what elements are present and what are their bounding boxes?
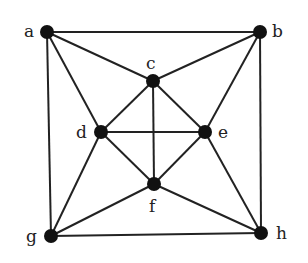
edge-f-h [154,184,261,233]
edge-g-h [51,233,261,236]
node-h [254,226,268,240]
edge-d-g [51,132,101,236]
node-g [44,229,58,243]
node-c [146,74,160,88]
edge-a-g [47,32,51,236]
node-label-c: c [146,53,156,73]
node-f [147,177,161,191]
node-label-a: a [24,21,34,41]
node-label-d: d [76,122,87,142]
edge-a-c [47,32,153,81]
edge-a-d [47,32,101,132]
edge-e-f [154,132,205,184]
node-e [198,125,212,139]
node-b [253,25,267,39]
node-label-g: g [26,226,37,246]
edge-c-e [153,81,205,132]
edge-c-d [101,81,153,132]
edge-d-f [101,132,154,184]
node-label-b: b [272,21,283,41]
node-label-f: f [149,196,157,216]
edge-f-g [51,184,154,236]
node-label-e: e [218,122,228,142]
node-d [94,125,108,139]
edge-b-e [205,32,260,132]
edge-b-c [153,32,260,81]
edge-e-h [205,132,261,233]
edge-b-h [260,32,261,233]
node-a [40,25,54,39]
graph-diagram: abcdefgh [0,0,308,263]
node-label-h: h [276,223,287,243]
